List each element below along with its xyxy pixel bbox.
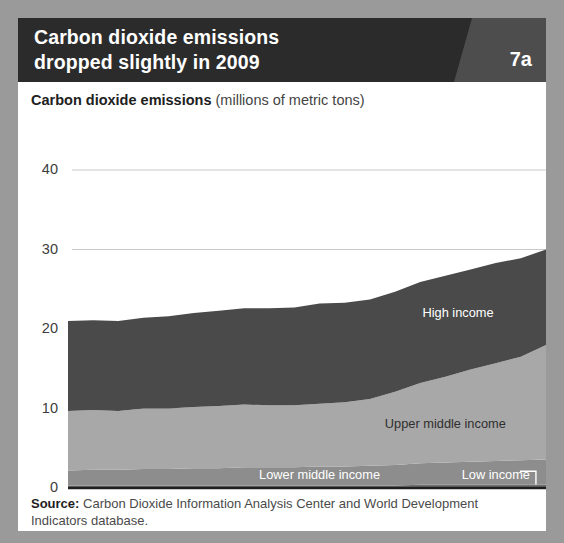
y-tick-label: 40	[24, 161, 58, 177]
y-tick-label: 30	[24, 241, 58, 257]
series-label: Low income	[462, 467, 530, 482]
chart-subtitle: Carbon dioxide emissions (millions of me…	[31, 92, 365, 108]
y-tick-label: 20	[24, 320, 58, 336]
stacked-area-chart	[18, 122, 546, 522]
source-text: Carbon Dioxide Information Analysis Cent…	[31, 496, 478, 528]
figure-title: Carbon dioxide emissions dropped slightl…	[34, 25, 434, 75]
series-label: High income	[422, 305, 493, 320]
chart-subtitle-strong: Carbon dioxide emissions	[31, 92, 212, 108]
figure-number-badge: 7a	[510, 48, 532, 71]
header-wedge	[454, 18, 546, 82]
series-label: Lower middle income	[259, 467, 380, 482]
figure-title-line2: dropped slightly in 2009	[34, 50, 434, 75]
y-tick-label: 10	[24, 400, 58, 416]
series-label: Upper middle income	[385, 416, 506, 431]
y-tick-label: 0	[24, 479, 58, 495]
area-series-group	[68, 250, 546, 489]
source-note: Source: Carbon Dioxide Information Analy…	[31, 495, 531, 529]
chart-subtitle-unit: (millions of metric tons)	[212, 92, 365, 108]
source-label: Source:	[31, 496, 79, 511]
figure-title-line1: Carbon dioxide emissions	[34, 26, 279, 48]
figure-header: Carbon dioxide emissions dropped slightl…	[18, 18, 546, 82]
chart-plot-area: 010203040 19901995200020052009 High inco…	[18, 122, 546, 482]
figure-card: Carbon dioxide emissions dropped slightl…	[18, 18, 546, 531]
